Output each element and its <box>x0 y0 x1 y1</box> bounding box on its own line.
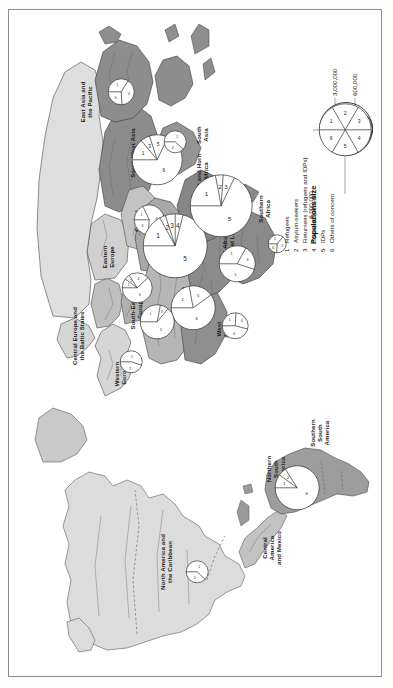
svg-text:6: 6 <box>330 135 333 141</box>
svg-text:1: 1 <box>142 150 145 156</box>
svg-text:1: 1 <box>149 312 151 316</box>
pie-south-eastern-europe[interactable]: 135 <box>139 304 175 340</box>
svg-text:6: 6 <box>233 332 235 336</box>
svg-text:3: 3 <box>161 311 163 315</box>
svg-text:1: 1 <box>198 565 200 569</box>
svg-text:6: 6 <box>139 293 141 297</box>
svg-text:6: 6 <box>162 167 165 173</box>
legend-num-5: 5 <box>319 244 326 252</box>
pie-north-america-and-the-caribbean[interactable]: 12 <box>185 560 209 584</box>
pie-western-europe[interactable]: 12 <box>119 350 143 374</box>
legend: Populations size 6,000,000 3,000,000 600… <box>309 14 375 244</box>
svg-text:4: 4 <box>241 319 243 323</box>
svg-text:1: 1 <box>176 135 178 139</box>
svg-text:4: 4 <box>137 277 139 281</box>
svg-text:5: 5 <box>157 141 160 147</box>
legend-label-idps: IDPs <box>319 230 326 243</box>
svg-text:1: 1 <box>229 318 231 322</box>
svg-text:6: 6 <box>272 246 274 250</box>
svg-text:6: 6 <box>115 96 117 100</box>
legend-label-others-of-concern: Others of concern <box>328 194 335 243</box>
svg-text:4: 4 <box>358 135 361 141</box>
svg-text:5: 5 <box>228 215 232 222</box>
svg-text:1: 1 <box>230 253 232 257</box>
size-label-3000000: 3,000,000 <box>331 68 338 96</box>
pie-west-africa[interactable]: 146 <box>221 312 249 340</box>
pie-north-africa[interactable]: 156 <box>170 285 216 331</box>
svg-text:5: 5 <box>234 273 236 277</box>
svg-text:4: 4 <box>172 147 174 151</box>
svg-text:2: 2 <box>129 367 131 371</box>
legend-num-6: 6 <box>328 244 335 252</box>
legend-sample-pie: 123456 <box>318 103 372 157</box>
svg-text:2: 2 <box>344 111 347 117</box>
svg-text:1: 1 <box>204 190 208 197</box>
figure-page: East Asia and the Pacific South-West Asi… <box>0 0 393 688</box>
svg-text:2: 2 <box>218 183 222 190</box>
legend-label-stateless-persons: Stateless persons <box>310 194 317 243</box>
svg-text:3: 3 <box>148 143 151 149</box>
size-label-600000: 600,000 <box>351 74 358 96</box>
svg-text:2: 2 <box>130 279 132 283</box>
legend-num-1: 1 <box>283 244 290 252</box>
legend-num-3: 3 <box>301 244 308 252</box>
svg-text:3: 3 <box>224 184 228 191</box>
svg-text:4: 4 <box>128 92 130 96</box>
svg-text:3: 3 <box>246 258 248 262</box>
svg-text:1: 1 <box>127 283 129 287</box>
svg-text:1: 1 <box>131 355 133 359</box>
svg-text:1: 1 <box>330 119 333 125</box>
svg-text:1: 1 <box>116 83 118 87</box>
legend-label-asylum-seekers: Asylum-seekers <box>292 199 299 243</box>
legend-label-refugees: Refugees <box>283 217 290 244</box>
legend-label-returnees: Returnees (refugees and IDPs) <box>301 157 308 243</box>
legend-num-2: 2 <box>292 244 299 252</box>
svg-text:2: 2 <box>194 577 196 581</box>
svg-text:4: 4 <box>176 223 180 230</box>
svg-text:3: 3 <box>358 119 361 125</box>
svg-text:1: 1 <box>274 237 276 241</box>
svg-text:3: 3 <box>170 223 174 230</box>
svg-text:5: 5 <box>160 328 162 332</box>
svg-text:5: 5 <box>344 143 347 149</box>
legend-num-4: 4 <box>310 244 317 252</box>
pie-northern-south-america[interactable]: 126 <box>274 465 320 511</box>
landscape-canvas: East Asia and the Pacific South-West Asi… <box>9 10 381 676</box>
pie-south-asia[interactable]: 14 <box>163 130 187 154</box>
svg-text:5: 5 <box>183 255 187 262</box>
pie-east-and-horn-of-africa[interactable]: 1235 <box>189 174 253 238</box>
pie-central-africa-and-the-great-lakes[interactable]: 135 <box>218 245 256 283</box>
rotated-map-viewport: East Asia and the Pacific South-West Asi… <box>9 10 381 676</box>
pie-east-asia-and-the-pacific[interactable]: 146 <box>107 78 135 106</box>
svg-text:1: 1 <box>156 232 160 239</box>
